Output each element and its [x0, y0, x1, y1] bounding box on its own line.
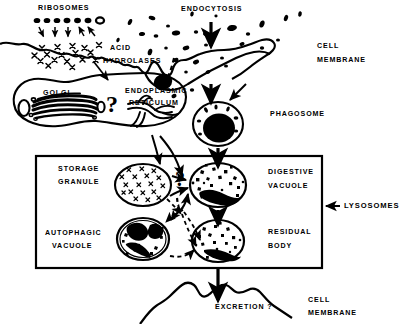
label-cell-membrane-top-1: CELL [317, 42, 339, 51]
label-endocytosis: ENDOCYTOSIS [181, 5, 242, 14]
label-ribosomes: RIBOSOMES [38, 4, 89, 13]
label-er-2: RETICULUM [129, 99, 179, 108]
question-mark-center: ? [175, 168, 185, 191]
label-cell-membrane-bottom-2: MEMBRANE [308, 309, 357, 318]
label-acid-hydrolases-1: ACID [110, 44, 131, 53]
label-autophagic-vacuole-2: VACUOLE [52, 242, 92, 251]
label-lysosomes: LYSOSOMES [344, 201, 400, 210]
label-digestive-vacuole-2: VACUOLE [268, 182, 308, 191]
label-golgi: GOLGI [43, 89, 70, 98]
autophagic-vacuole [117, 218, 169, 260]
label-digestive-vacuole-1: DIGESTIVE [268, 168, 314, 177]
label-storage-granule-1: STORAGE [58, 165, 99, 174]
label-excretion: EXCRETION ? [215, 303, 273, 312]
label-residual-body-1: RESIDUAL [268, 228, 311, 237]
label-cell-membrane-top-2: MEMBRANE [317, 56, 366, 65]
digestive-vacuole [190, 162, 246, 207]
label-phagosome: PHAGOSOME [270, 110, 325, 119]
ribosome-cluster [34, 17, 104, 23]
phagosome [193, 102, 243, 146]
diagram-vector-layer [0, 0, 401, 324]
label-acid-hydrolases-2: HYDROLASES [103, 57, 161, 66]
lysosome-diagram: RIBOSOMES ACID HYDROLASES GOLGI ENDOPLAS… [0, 0, 401, 324]
to-phagosome-arrow-right [230, 84, 246, 100]
extracellular-particles [116, 11, 303, 99]
label-residual-body-2: BODY [268, 242, 292, 251]
label-cell-membrane-bottom-1: CELL [308, 296, 330, 305]
ribosome-to-hydrolase-arrows [39, 27, 95, 37]
label-er-1: ENDOPLASMIC [125, 87, 187, 96]
label-storage-granule-2: GRANULE [58, 178, 99, 187]
storage-granule [115, 164, 171, 206]
residual-body [192, 220, 244, 262]
question-mark-golgi: ? [106, 91, 118, 118]
dashed-stub [177, 198, 178, 206]
label-autophagic-vacuole-1: AUTOPHAGIC [45, 229, 102, 238]
